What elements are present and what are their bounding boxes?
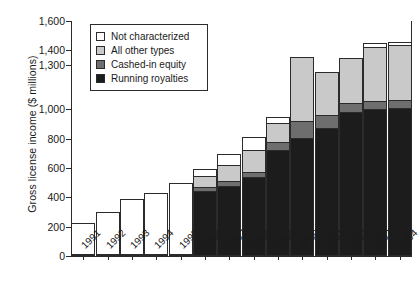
bar-segment-cashed-in-equity <box>364 102 386 110</box>
x-axis-line <box>71 256 412 257</box>
bar-segment-all-other-types <box>194 177 216 188</box>
y-tick <box>66 256 71 257</box>
bar-2001 <box>315 72 339 256</box>
x-tick <box>327 256 328 260</box>
x-tick <box>181 256 182 260</box>
bar-2003 <box>363 43 387 256</box>
y-tick-label: 400 <box>47 191 65 203</box>
x-tick <box>108 256 109 260</box>
x-tick <box>156 256 157 260</box>
bar-segment-cashed-in-equity <box>340 104 362 113</box>
bar-segment-all-other-types <box>340 59 362 104</box>
bar-2000 <box>290 57 314 256</box>
y-tick-label: 600 <box>47 162 65 174</box>
y-axis-title: Gross license income ($ millions) <box>26 29 38 239</box>
bar-2002 <box>339 58 363 256</box>
legend-item-not-characterized: Not characterized <box>96 30 202 43</box>
y-tick-label: 1,000 <box>39 103 65 115</box>
bar-segment-not-characterized <box>218 155 240 167</box>
x-tick <box>351 256 352 260</box>
legend-label-all-other-types: All other types <box>111 45 174 56</box>
bar-segment-all-other-types <box>316 73 338 117</box>
legend-item-all-other-types: All other types <box>96 44 202 57</box>
bar-segment-all-other-types <box>267 124 289 143</box>
x-tick <box>205 256 206 260</box>
legend-label-not-characterized: Not characterized <box>111 31 189 42</box>
x-tick <box>302 256 303 260</box>
legend-swatch-all-other-types <box>96 46 105 55</box>
bar-stack <box>363 43 387 256</box>
bar-segment-cashed-in-equity <box>291 122 313 139</box>
bar-segment-cashed-in-equity <box>389 101 411 109</box>
bar-stack <box>339 58 363 256</box>
y-tick-label: 800 <box>47 133 65 145</box>
y-tick-label: 1,600 <box>39 15 65 27</box>
y-tick-label: 0 <box>59 250 65 262</box>
stacked-bar-chart: Gross license income ($ millions) 020040… <box>0 0 420 303</box>
x-tick <box>229 256 230 260</box>
bar-stack <box>388 42 412 256</box>
bar-stack <box>315 72 339 256</box>
bar-segment-cashed-in-equity <box>267 143 289 151</box>
legend-label-running-royalties: Running royalties <box>111 73 188 84</box>
legend-swatch-not-characterized <box>96 32 105 41</box>
bar-segment-all-other-types <box>243 151 265 173</box>
bar-segment-all-other-types <box>218 166 240 182</box>
y-tick-label: 1,300 <box>39 59 65 71</box>
legend-label-cashed-in-equity: Cashed-in equity <box>111 59 186 70</box>
y-tick-label: 1,400 <box>39 44 65 56</box>
bar-stack <box>290 57 314 256</box>
bar-segment-not-characterized <box>243 138 265 151</box>
bar-2004 <box>388 42 412 256</box>
bar-segment-all-other-types <box>291 58 313 122</box>
bar-segment-cashed-in-equity <box>316 116 338 128</box>
x-tick <box>83 256 84 260</box>
y-tick-label: 200 <box>47 221 65 233</box>
x-tick <box>278 256 279 260</box>
legend-item-running-royalties: Running royalties <box>96 72 202 85</box>
bar-segment-not-characterized <box>194 170 216 177</box>
bar-segment-all-other-types <box>389 46 411 101</box>
x-tick <box>254 256 255 260</box>
x-tick <box>132 256 133 260</box>
legend-item-cashed-in-equity: Cashed-in equity <box>96 58 202 71</box>
x-tick <box>375 256 376 260</box>
legend-swatch-running-royalties <box>96 74 105 83</box>
legend: Not characterized All other types Cashed… <box>90 24 208 91</box>
x-tick <box>400 256 401 260</box>
legend-swatch-cashed-in-equity <box>96 60 105 69</box>
bar-segment-all-other-types <box>364 48 386 102</box>
